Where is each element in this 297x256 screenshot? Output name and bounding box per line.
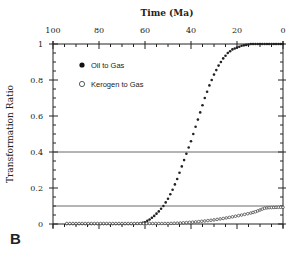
data-point bbox=[219, 218, 222, 221]
data-point bbox=[228, 216, 231, 219]
data-point bbox=[162, 205, 165, 208]
data-point bbox=[210, 79, 213, 82]
data-point bbox=[222, 57, 225, 60]
data-point bbox=[66, 222, 69, 225]
data-point bbox=[210, 219, 213, 222]
data-point bbox=[236, 46, 239, 49]
data-point bbox=[160, 207, 163, 210]
data-point bbox=[200, 220, 203, 223]
data-point bbox=[263, 43, 266, 46]
data-point bbox=[164, 201, 167, 204]
data-point bbox=[75, 222, 78, 225]
data-point bbox=[188, 221, 191, 224]
data-point bbox=[240, 45, 243, 48]
x-tick-label: 20 bbox=[232, 26, 242, 35]
data-point bbox=[252, 43, 255, 46]
data-point bbox=[146, 220, 149, 223]
data-point bbox=[225, 217, 228, 220]
data-point bbox=[254, 43, 257, 46]
data-point bbox=[167, 222, 170, 225]
data-point bbox=[170, 222, 173, 225]
data-point bbox=[282, 206, 285, 209]
data-point bbox=[222, 217, 225, 220]
data-point bbox=[108, 222, 111, 225]
y-tick-label: 1 bbox=[38, 40, 43, 49]
y-axis-label: Transformation Ratio bbox=[5, 85, 15, 183]
data-point bbox=[266, 43, 269, 46]
data-point bbox=[171, 189, 174, 192]
data-point bbox=[206, 90, 209, 93]
legend: Oil to GasKerogen to Gas bbox=[79, 61, 143, 89]
data-point bbox=[229, 50, 232, 53]
y-tick-label: 0.8 bbox=[30, 76, 43, 85]
data-point bbox=[84, 222, 87, 225]
data-point bbox=[279, 43, 282, 46]
data-point bbox=[155, 212, 158, 215]
data-point bbox=[224, 54, 227, 57]
x-tick-label: 40 bbox=[186, 26, 196, 35]
x-tick-label: 80 bbox=[94, 26, 104, 35]
data-point bbox=[78, 222, 81, 225]
data-point bbox=[167, 198, 170, 201]
data-point bbox=[183, 159, 186, 162]
data-point bbox=[154, 222, 157, 225]
data-point bbox=[139, 222, 142, 225]
data-point bbox=[127, 222, 130, 225]
data-point bbox=[208, 84, 211, 87]
data-point bbox=[213, 219, 216, 222]
data-point bbox=[268, 43, 271, 46]
data-point bbox=[282, 43, 285, 46]
series-oil-to-gas bbox=[66, 43, 285, 226]
data-point bbox=[174, 183, 177, 186]
data-point bbox=[151, 216, 154, 219]
data-point bbox=[81, 222, 84, 225]
data-point bbox=[133, 222, 136, 225]
data-point bbox=[179, 222, 182, 225]
data-point bbox=[220, 61, 223, 64]
data-point bbox=[261, 43, 264, 46]
data-point bbox=[90, 222, 93, 225]
data-point bbox=[178, 171, 181, 174]
data-point bbox=[201, 104, 204, 107]
data-point bbox=[243, 44, 246, 47]
data-point bbox=[259, 43, 262, 46]
data-point bbox=[199, 111, 202, 114]
data-point bbox=[243, 213, 246, 216]
legend-marker-open bbox=[79, 81, 84, 86]
data-point bbox=[151, 222, 154, 225]
chart: 10080604020000.20.40.60.81 Oil to GasKer… bbox=[0, 0, 297, 256]
data-point bbox=[207, 219, 210, 222]
y-tick-label: 0 bbox=[38, 220, 43, 229]
data-point bbox=[93, 222, 96, 225]
axes: 10080604020000.20.40.60.81 bbox=[30, 26, 286, 229]
data-point bbox=[187, 146, 190, 149]
data-point bbox=[115, 222, 118, 225]
data-point bbox=[148, 218, 151, 221]
data-point bbox=[204, 97, 207, 100]
data-point bbox=[275, 43, 278, 46]
data-point bbox=[231, 48, 234, 51]
series-kerogen-to-gas bbox=[66, 206, 285, 225]
data-point bbox=[69, 222, 72, 225]
data-point bbox=[185, 153, 188, 156]
data-point bbox=[277, 43, 280, 46]
y-tick-label: 0.4 bbox=[30, 148, 43, 157]
data-point bbox=[164, 222, 167, 225]
data-point bbox=[190, 140, 193, 143]
data-point bbox=[234, 215, 237, 218]
data-point bbox=[142, 222, 145, 225]
data-point bbox=[231, 216, 234, 219]
data-point bbox=[118, 222, 121, 225]
data-point bbox=[215, 69, 218, 72]
data-point bbox=[158, 222, 161, 225]
data-point bbox=[145, 222, 148, 225]
data-point bbox=[192, 133, 195, 136]
data-point bbox=[240, 214, 243, 217]
data-point bbox=[112, 222, 115, 225]
data-point bbox=[270, 43, 273, 46]
data-point bbox=[161, 222, 164, 225]
data-point bbox=[185, 221, 188, 224]
data-point bbox=[213, 73, 216, 76]
data-point bbox=[191, 221, 194, 224]
data-point bbox=[72, 222, 75, 225]
